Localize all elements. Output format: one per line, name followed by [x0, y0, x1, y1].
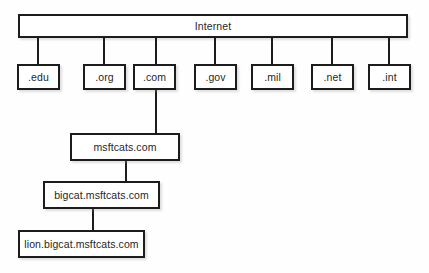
connector-root-to-org: [103, 38, 105, 64]
node-tld-label: .edu: [28, 72, 49, 83]
node-domain-label: bigcat.msftcats.com: [54, 190, 149, 201]
node-tld-label: .org: [95, 72, 114, 83]
node-lion-bigcat-msftcats-com: lion.bigcat.msftcats.com: [18, 230, 145, 258]
node-tld-int: .int: [368, 64, 411, 90]
connector-root-to-gov: [214, 38, 216, 64]
node-tld-com: .com: [133, 64, 176, 90]
node-bigcat-msftcats-com: bigcat.msftcats.com: [43, 181, 160, 209]
node-internet-label: Internet: [195, 21, 231, 32]
connector-msftcats-to-bigcat: [125, 161, 127, 181]
node-domain-label: msftcats.com: [93, 142, 156, 153]
node-tld-label: .gov: [205, 72, 225, 83]
node-tld-edu: .edu: [17, 64, 60, 90]
connector-root-to-int: [388, 38, 390, 64]
node-internet: Internet: [18, 14, 408, 38]
connector-root-to-edu: [37, 38, 39, 64]
node-tld-label: .net: [324, 72, 342, 83]
connector-root-to-com: [155, 38, 157, 64]
connector-com-to-msftcats: [155, 90, 157, 133]
node-tld-org: .org: [83, 64, 126, 90]
connector-root-to-mil: [271, 38, 273, 64]
domain-hierarchy-diagram: Internet .edu.org.com.gov.mil.net.int ms…: [0, 0, 429, 273]
node-domain-label: lion.bigcat.msftcats.com: [24, 239, 138, 250]
node-tld-label: .mil: [264, 72, 281, 83]
node-tld-gov: .gov: [194, 64, 237, 90]
node-msftcats-com: msftcats.com: [70, 133, 180, 161]
node-tld-label: .com: [143, 72, 166, 83]
connector-bigcat-to-lion: [92, 209, 94, 230]
node-tld-label: .int: [382, 72, 396, 83]
node-tld-mil: .mil: [251, 64, 294, 90]
node-tld-net: .net: [311, 64, 354, 90]
connector-root-to-net: [331, 38, 333, 64]
